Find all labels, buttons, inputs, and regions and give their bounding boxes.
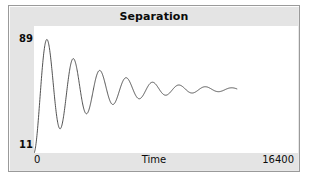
y-axis-min-tick: 11 (19, 140, 33, 150)
page-title: Separation (120, 11, 189, 22)
x-axis-title: Time (10, 155, 298, 165)
separation-chart-widget: Separation 89 11 0 Time 16400 (8, 5, 300, 172)
x-axis-label-band: 0 Time 16400 (10, 153, 298, 170)
y-axis-label-band: 89 11 (10, 26, 34, 153)
damped-oscillation-plot (34, 26, 298, 153)
x-axis-max-tick: 16400 (262, 155, 294, 165)
y-axis-max-tick: 89 (19, 34, 33, 44)
separation-curve (34, 39, 237, 153)
chart-title-bar: Separation (10, 7, 298, 26)
plot-area (34, 26, 298, 153)
